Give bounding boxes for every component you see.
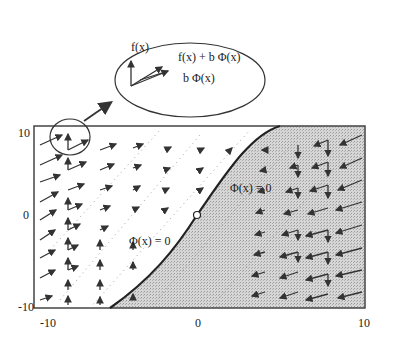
callout-arrow [84,103,110,121]
label-b-phi: b Φ(x) [183,71,215,86]
y-tick-bottom: -10 [18,300,34,315]
y-tick-top: 10 [18,126,30,141]
x-tick-right: 10 [358,316,370,331]
label-f-plus-b-phi: f(x) + b Φ(x) [178,50,241,65]
x-tick-left: -10 [40,316,56,331]
label-f-x: f(x) [131,40,149,55]
label-phi-zero-lower: Φ(x) = 0 [129,234,171,249]
y-tick-mid: 0 [23,208,29,223]
label-phi-zero-upper: Φ(x) = 0 [230,181,272,196]
shaded-region [110,126,365,308]
origin-marker [194,212,201,219]
x-tick-mid: 0 [195,316,201,331]
